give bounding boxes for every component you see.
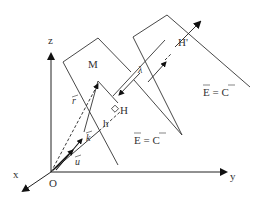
wavelength-label: λ bbox=[137, 64, 143, 75]
diagram-svg: z y x O M H H' h r k u λ E = C E = C bbox=[0, 0, 262, 202]
axis-label-y: y bbox=[230, 170, 236, 182]
vector-label-u: u bbox=[75, 156, 80, 167]
lambda-arrow bbox=[119, 73, 140, 95]
axis-label-x: x bbox=[13, 168, 19, 180]
origin-label: O bbox=[49, 177, 57, 189]
wave-plane-3 bbox=[133, 15, 250, 135]
wave-planes-diagram: z y x O M H H' h r k u λ E = C E = C bbox=[0, 0, 262, 202]
point-label-m: M bbox=[88, 58, 98, 70]
point-label-h-small: h bbox=[103, 117, 109, 129]
plane-equation-label-2: E = C bbox=[203, 86, 229, 98]
point-label-h-prime: H' bbox=[178, 36, 188, 48]
axis-label-z: z bbox=[48, 34, 53, 46]
plane-equation-label-1: E = C bbox=[134, 134, 160, 146]
wave-plane-2 bbox=[113, 40, 182, 135]
vector-label-k: k bbox=[86, 132, 91, 143]
x-axis bbox=[23, 172, 51, 191]
right-angle-marker bbox=[111, 105, 118, 112]
point-label-h: H bbox=[120, 104, 128, 116]
